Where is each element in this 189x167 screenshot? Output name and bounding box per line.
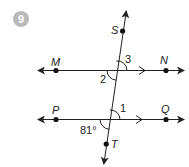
point-n	[163, 68, 168, 73]
label-angle-81: 81°	[80, 125, 97, 136]
label-angle-2: 2	[100, 74, 106, 85]
label-p: P	[52, 105, 59, 116]
label-s: S	[111, 25, 118, 36]
label-t: T	[111, 139, 118, 150]
label-q: Q	[161, 104, 170, 115]
point-p	[53, 117, 58, 122]
point-q	[163, 117, 168, 122]
label-m: M	[51, 57, 60, 68]
parallel-lines-diagram	[0, 0, 189, 167]
label-angle-3: 3	[125, 54, 131, 65]
angle-2-arc	[107, 71, 116, 81]
label-angle-1: 1	[120, 103, 126, 114]
point-t	[104, 141, 109, 146]
angle-81-arc	[100, 120, 109, 130]
point-s	[120, 28, 125, 33]
label-n: N	[160, 55, 168, 66]
point-m	[53, 68, 58, 73]
